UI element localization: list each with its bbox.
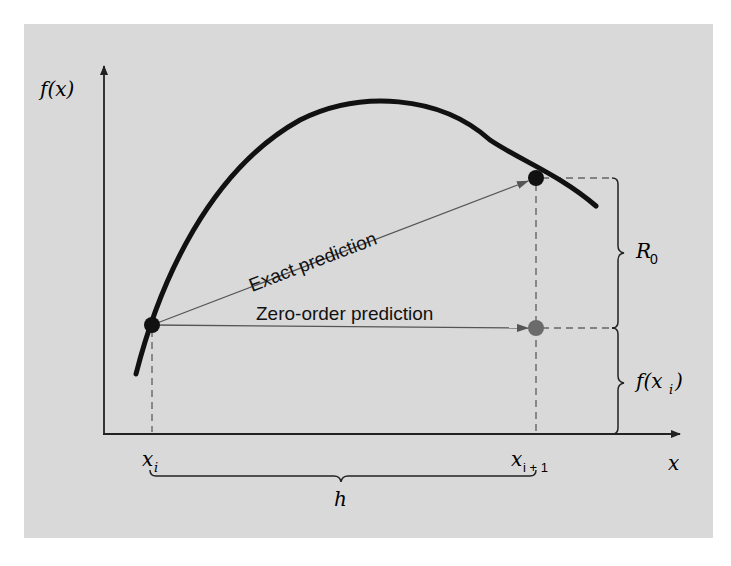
h-brace <box>150 470 536 482</box>
svg-text:0: 0 <box>650 251 658 267</box>
exact-end-point <box>528 170 544 186</box>
fxi-label: f(x i ) <box>634 369 683 397</box>
xi-label: x i <box>142 447 158 475</box>
svg-text:): ) <box>674 369 683 393</box>
svg-text:i: i <box>669 382 673 397</box>
start-point <box>144 317 160 333</box>
zero-order-prediction-arrow <box>152 325 528 328</box>
svg-text:x: x <box>142 447 153 471</box>
taylor-diagram: f(x) x Exact prediction Zero-order predi… <box>0 0 731 566</box>
zero-order-end-point <box>528 320 544 336</box>
remainder-brace <box>612 178 624 328</box>
svg-text:i + 1: i + 1 <box>523 460 548 475</box>
step-label-h: h <box>334 487 347 511</box>
y-axis-label: f(x) <box>38 77 74 101</box>
fxi-brace <box>612 328 624 434</box>
exact-prediction-label: Exact prediction <box>246 228 380 296</box>
svg-text:i: i <box>154 460 158 475</box>
svg-text:f(x: f(x <box>634 369 662 393</box>
xi1-label: x i + 1 <box>511 447 548 475</box>
x-axis-label: x <box>668 451 679 475</box>
svg-text:x: x <box>511 447 522 471</box>
zero-order-prediction-label: Zero-order prediction <box>256 303 433 324</box>
remainder-label: R 0 <box>635 239 658 267</box>
svg-text:R: R <box>635 239 651 263</box>
